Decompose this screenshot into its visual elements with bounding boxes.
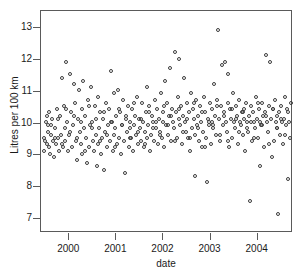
scatter-points-layer — [41, 11, 291, 231]
y-tick-label: 13 — [8, 22, 32, 32]
scatter-point — [53, 136, 57, 140]
scatter-point — [166, 123, 170, 127]
scatter-point — [143, 142, 147, 146]
scatter-point — [104, 101, 108, 105]
scatter-point — [116, 88, 120, 92]
scatter-point — [236, 142, 240, 146]
scatter-point — [226, 101, 230, 105]
x-tick-label: 2004 — [237, 243, 277, 254]
scatter-point — [148, 149, 152, 153]
scatter-point — [247, 114, 251, 118]
scatter-point — [79, 120, 83, 124]
scatter-point — [70, 145, 74, 149]
scatter-point — [189, 91, 193, 95]
scatter-point — [199, 120, 203, 124]
scatter-point — [273, 98, 277, 102]
scatter-point — [279, 104, 283, 108]
y-tick-label: 7 — [8, 213, 32, 223]
scatter-point — [215, 98, 219, 102]
scatter-point — [201, 130, 205, 134]
scatter-point — [87, 104, 91, 108]
scatter-point — [226, 72, 230, 76]
scatter-point — [258, 164, 262, 168]
scatter-point — [131, 149, 135, 153]
scatter-point — [120, 123, 124, 127]
scatter-point — [114, 114, 118, 118]
scatter-point — [223, 60, 227, 64]
scatter-point — [124, 114, 128, 118]
scatter-point — [193, 133, 197, 137]
scatter-point — [132, 123, 136, 127]
scatter-point — [174, 110, 178, 114]
scatter-point — [94, 117, 98, 121]
scatter-point — [93, 104, 97, 108]
scatter-point — [84, 136, 88, 140]
scatter-point — [262, 145, 266, 149]
scatter-point — [125, 130, 129, 134]
scatter-point — [188, 136, 192, 140]
scatter-point — [95, 164, 99, 168]
scatter-point — [75, 136, 79, 140]
scatter-point — [283, 133, 287, 137]
scatter-point — [122, 139, 126, 143]
scatter-point — [72, 82, 76, 86]
scatter-point — [56, 117, 60, 121]
scatter-point — [105, 133, 109, 137]
scatter-point — [55, 107, 59, 111]
scatter-point — [79, 142, 83, 146]
y-tick-label: 12 — [8, 54, 32, 64]
x-tick-mark — [210, 233, 211, 240]
scatter-point — [192, 101, 196, 105]
y-tick-mark — [33, 154, 40, 155]
scatter-point — [241, 110, 245, 114]
scatter-point — [265, 120, 269, 124]
scatter-point — [257, 107, 261, 111]
scatter-point — [173, 50, 177, 54]
scatter-point — [182, 76, 186, 80]
scatter-point — [276, 212, 280, 216]
scatter-point — [256, 136, 260, 140]
scatter-point — [188, 149, 192, 153]
scatter-point — [155, 107, 159, 111]
scatter-point — [153, 98, 157, 102]
x-tick-label: 2000 — [48, 243, 88, 254]
scatter-point — [172, 126, 176, 130]
scatter-point — [90, 126, 94, 130]
scatter-point — [107, 107, 111, 111]
scatter-point — [89, 85, 93, 89]
y-tick-label: 9 — [8, 149, 32, 159]
scatter-point — [68, 72, 72, 76]
scatter-point — [268, 60, 272, 64]
scatter-point — [234, 104, 238, 108]
scatter-point — [66, 149, 70, 153]
scatter-point — [128, 136, 132, 140]
scatter-point — [73, 101, 77, 105]
scatter-point — [267, 142, 271, 146]
scatter-point — [249, 120, 253, 124]
scatter-point — [159, 91, 163, 95]
scatter-point — [53, 126, 57, 130]
scatter-point — [176, 95, 180, 99]
scatter-point — [112, 133, 116, 137]
y-tick-mark — [33, 123, 40, 124]
scatter-point — [196, 114, 200, 118]
scatter-point — [47, 145, 51, 149]
scatter-point — [274, 120, 278, 124]
scatter-point — [243, 149, 247, 153]
y-tick-mark — [33, 59, 40, 60]
scatter-point — [64, 107, 68, 111]
scatter-point — [230, 136, 234, 140]
x-tick-mark — [115, 233, 116, 240]
scatter-point — [169, 114, 173, 118]
scatter-point — [249, 104, 253, 108]
scatter-point — [224, 120, 228, 124]
scatter-point — [85, 161, 89, 165]
scatter-point — [193, 174, 197, 178]
scatter-point — [127, 145, 131, 149]
scatter-point — [254, 95, 258, 99]
scatter-point — [119, 152, 123, 156]
scatter-point — [288, 136, 292, 140]
scatter-point — [202, 95, 206, 99]
scatter-point — [171, 120, 175, 124]
scatter-point — [75, 158, 79, 162]
